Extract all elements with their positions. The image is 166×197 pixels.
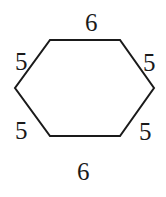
label-bottom-side: 6 (77, 158, 90, 185)
hexagon-diagram: 6 5 5 6 5 5 (0, 0, 166, 197)
label-lower-left-side: 5 (15, 117, 28, 144)
hexagon-outline (15, 40, 154, 136)
label-lower-right-side: 5 (139, 118, 152, 145)
hexagon-figure: 6 5 5 6 5 5 (0, 0, 166, 197)
label-upper-left-side: 5 (15, 48, 28, 75)
label-upper-right-side: 5 (143, 49, 156, 76)
label-top-side: 6 (85, 9, 98, 36)
